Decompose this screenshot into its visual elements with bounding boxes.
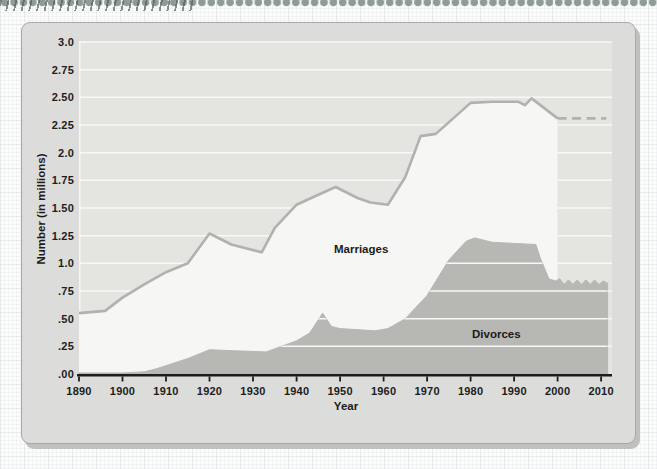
- x-axis-title: Year: [334, 400, 358, 412]
- page-edge-marks: [0, 0, 196, 11]
- textbook-page: 1890190019101920193019401950196019701980…: [0, 0, 657, 469]
- y-axis-title: Number (in millions): [35, 153, 47, 264]
- figure-card: [21, 22, 636, 444]
- divorces-series-label: Divorces: [472, 328, 521, 340]
- marriages-series-label: Marriages: [334, 243, 388, 255]
